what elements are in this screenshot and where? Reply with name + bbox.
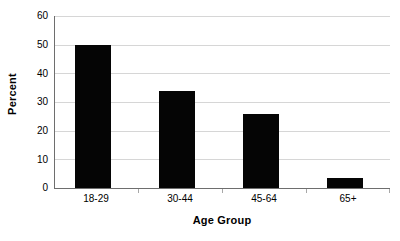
y-tick-label-50: 50 — [24, 40, 48, 50]
x-category-label-18-29: 18-29 — [54, 194, 138, 204]
x-tick-mark-4 — [389, 189, 390, 193]
bar-65-plus — [327, 178, 363, 188]
bar-chart: Percent 60 50 40 30 20 10 0 18-29 30-44 … — [0, 0, 400, 241]
y-tick-label-30: 30 — [24, 97, 48, 107]
x-tick-mark-2 — [222, 189, 223, 193]
y-tick-label-0: 0 — [24, 183, 48, 193]
gridline-60 — [54, 16, 390, 17]
y-axis-title-text: Percent — [6, 73, 18, 115]
bar-18-29 — [75, 45, 111, 188]
y-tick-label-40: 40 — [24, 69, 48, 79]
x-tick-mark-1 — [138, 189, 139, 193]
y-tick-label-60: 60 — [24, 11, 48, 21]
y-axis-title: Percent — [2, 0, 22, 188]
plot-area — [54, 16, 390, 188]
bar-45-64 — [243, 114, 279, 189]
x-tick-mark-3 — [306, 189, 307, 193]
y-tick-label-10: 10 — [24, 155, 48, 165]
x-axis-title: Age Group — [54, 214, 390, 226]
x-category-label-30-44: 30-44 — [138, 194, 222, 204]
y-tick-label-20: 20 — [24, 126, 48, 136]
bar-30-44 — [159, 91, 195, 189]
y-axis-line — [54, 16, 55, 189]
x-category-label-45-64: 45-64 — [222, 194, 306, 204]
x-category-label-65-plus: 65+ — [306, 194, 390, 204]
